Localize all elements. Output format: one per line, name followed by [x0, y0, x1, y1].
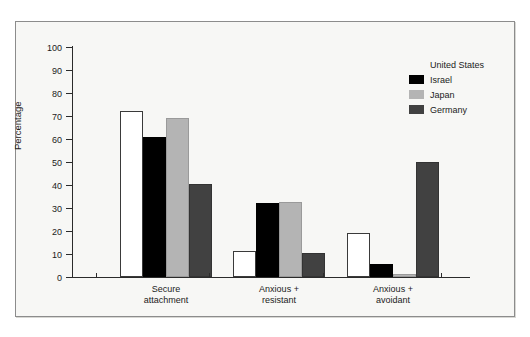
x-axis-group-divider — [323, 273, 324, 278]
bar-germany — [416, 162, 439, 277]
bar-group — [120, 47, 212, 277]
bar-germany — [302, 253, 325, 277]
y-axis-title: Percentage — [12, 101, 23, 150]
x-axis-category-label-line: Secure — [111, 284, 221, 295]
y-axis-tick: 30 — [66, 208, 73, 209]
y-axis-tick-label: 80 — [52, 89, 62, 98]
x-axis-category-label: Anxious +resistant — [224, 284, 334, 306]
bar-us — [120, 111, 143, 277]
bar-israel — [370, 264, 393, 277]
legend-label-japan: Japan — [430, 90, 455, 100]
bar-israel — [143, 137, 166, 277]
plot-area — [73, 47, 431, 277]
bar-group — [233, 47, 325, 277]
y-axis-tick: 100 — [66, 47, 73, 48]
legend-label-germany: Germany — [430, 105, 467, 115]
legend-item-us: United States — [409, 57, 484, 72]
y-axis-tick: 60 — [66, 139, 73, 140]
y-axis-tick-label: 20 — [52, 227, 62, 236]
legend-item-germany: Germany — [409, 102, 484, 117]
y-axis-tick: 50 — [66, 162, 73, 163]
y-axis-tick-label: 90 — [52, 66, 62, 75]
legend-item-israel: Israel — [409, 72, 484, 87]
bar-israel — [256, 203, 279, 277]
y-axis-tick-label: 10 — [52, 250, 62, 259]
x-axis-category-label: Anxious +avoidant — [338, 284, 448, 306]
x-axis-category-label-line: Anxious + — [338, 284, 448, 295]
chart-figure-frame: Percentage 1009080706050403020100 Secure… — [15, 21, 515, 317]
y-axis-tick-label: 60 — [52, 135, 62, 144]
bar-group-bars — [233, 47, 325, 277]
x-axis-group-divider — [209, 273, 210, 278]
y-axis-tick-label: 40 — [52, 181, 62, 190]
legend-label-israel: Israel — [430, 75, 452, 85]
bar-japan — [393, 274, 416, 277]
bar-group-bars — [120, 47, 212, 277]
y-axis-tick-label: 100 — [47, 43, 62, 52]
legend-swatch-japan — [409, 90, 424, 99]
y-axis-tick: 10 — [66, 254, 73, 255]
x-axis-group-divider — [96, 273, 97, 278]
y-axis-tick: 0 — [66, 277, 73, 278]
bar-us — [233, 251, 256, 277]
x-axis-category-label-line: attachment — [111, 295, 221, 306]
y-axis-tick-label: 30 — [52, 204, 62, 213]
legend-item-japan: Japan — [409, 87, 484, 102]
bar-germany — [189, 184, 212, 277]
y-axis-tick: 80 — [66, 93, 73, 94]
y-axis-tick-label: 0 — [57, 273, 62, 282]
y-axis-tick: 20 — [66, 231, 73, 232]
bar-japan — [279, 202, 302, 277]
legend-swatch-israel — [409, 75, 424, 84]
bar-us — [347, 233, 370, 277]
legend-swatch-germany — [409, 105, 424, 114]
bar-japan — [166, 118, 189, 277]
x-axis-category-label-line: avoidant — [338, 295, 448, 306]
x-axis-category-label-line: resistant — [224, 295, 334, 306]
legend-label-us: United States — [430, 60, 484, 70]
y-axis-tick: 70 — [66, 116, 73, 117]
x-axis-line — [72, 277, 470, 278]
chart-legend: United StatesIsraelJapanGermany — [409, 57, 484, 117]
x-axis-group-divider — [441, 273, 442, 278]
x-axis-category-label-line: Anxious + — [224, 284, 334, 295]
y-axis-tick: 40 — [66, 185, 73, 186]
x-axis-category-label: Secureattachment — [111, 284, 221, 306]
y-axis-tick-label: 50 — [52, 158, 62, 167]
y-axis-tick: 90 — [66, 70, 73, 71]
y-axis-tick-label: 70 — [52, 112, 62, 121]
legend-swatch-us — [409, 60, 424, 69]
